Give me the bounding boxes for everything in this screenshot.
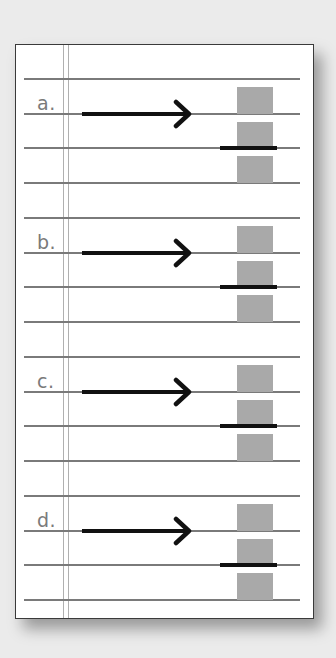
section-label: d. xyxy=(37,511,56,530)
right-arrow-icon xyxy=(172,99,194,129)
notebook-card: a.b.c.d. xyxy=(15,44,314,619)
black-bar xyxy=(220,285,277,289)
gray-block xyxy=(237,295,273,322)
ruled-line xyxy=(24,356,300,358)
ruled-line xyxy=(24,217,300,219)
section-label: c. xyxy=(37,372,55,391)
gray-block xyxy=(237,87,273,114)
gray-block xyxy=(237,122,273,149)
gray-block xyxy=(237,365,273,392)
arrow-shaft xyxy=(82,390,186,394)
gray-block xyxy=(237,573,273,600)
gray-block xyxy=(237,261,273,288)
gray-block xyxy=(237,226,273,253)
ruled-line xyxy=(24,495,300,497)
section-label: a. xyxy=(37,94,56,113)
black-bar xyxy=(220,563,277,567)
gray-block xyxy=(237,400,273,427)
right-arrow-icon xyxy=(172,238,194,268)
section-label: b. xyxy=(37,233,56,252)
right-arrow-icon xyxy=(172,377,194,407)
right-arrow-icon xyxy=(172,516,194,546)
margin-line-right xyxy=(68,45,69,618)
arrow-shaft xyxy=(82,251,186,255)
gray-block xyxy=(237,434,273,461)
gray-block xyxy=(237,504,273,531)
gray-block xyxy=(237,156,273,183)
margin-line-left xyxy=(63,45,64,618)
black-bar xyxy=(220,146,277,150)
gray-block xyxy=(237,539,273,566)
black-bar xyxy=(220,424,277,428)
arrow-shaft xyxy=(82,529,186,533)
arrow-shaft xyxy=(82,112,186,116)
ruled-line xyxy=(24,78,300,80)
